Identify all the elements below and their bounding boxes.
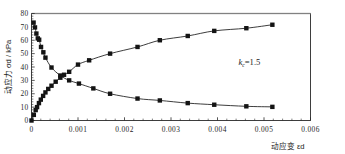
data-point-marker <box>270 23 274 27</box>
data-point-marker <box>108 92 112 96</box>
x-tick-label: 0.003 <box>162 125 180 134</box>
data-point-marker <box>32 113 36 117</box>
data-point-marker <box>135 96 139 100</box>
x-tick-label: 0 <box>29 125 33 134</box>
data-point-marker <box>53 80 57 84</box>
data-point-marker <box>37 38 41 42</box>
data-point-marker <box>67 70 71 74</box>
data-point-marker <box>158 98 162 102</box>
data-point-marker <box>43 55 47 59</box>
chart-canvas: 00.0010.0020.0030.0040.0050.006 01020304… <box>0 0 345 154</box>
plot-frame <box>32 14 311 121</box>
data-point-marker <box>135 45 139 49</box>
x-tick-label: 0.004 <box>208 125 226 134</box>
data-point-marker <box>76 62 80 66</box>
y-axis-tick-labels: 01020304050607080 <box>20 9 28 125</box>
data-point-marker <box>244 26 248 30</box>
x-axis-title: 动应变 εd <box>271 141 305 151</box>
data-point-marker <box>212 29 216 33</box>
data-point-marker <box>33 25 37 29</box>
y-tick-label: 0 <box>24 116 28 125</box>
data-point-marker <box>108 51 112 55</box>
y-tick-label: 30 <box>20 76 28 85</box>
data-point-marker <box>87 58 91 62</box>
x-axis-ticks <box>32 117 311 120</box>
y-tick-label: 20 <box>20 89 28 98</box>
data-point-marker <box>158 38 162 42</box>
data-point-marker <box>77 81 81 85</box>
y-tick-label: 70 <box>20 23 28 32</box>
axis-titles: 动应变 εd动应力 σd / kPa <box>3 39 305 151</box>
data-markers <box>29 20 274 122</box>
data-point-marker <box>244 104 248 108</box>
data-point-marker <box>34 31 38 35</box>
data-point-marker <box>49 84 53 88</box>
x-tick-label: 0.001 <box>69 125 87 134</box>
y-tick-label: 40 <box>20 63 28 72</box>
chart-annotations: kc=1.5 <box>238 57 260 68</box>
x-tick-label: 0.002 <box>115 125 133 134</box>
x-axis-tick-labels: 00.0010.0020.0030.0040.0050.006 <box>29 125 319 134</box>
data-point-marker <box>31 20 35 24</box>
data-point-marker <box>41 50 45 54</box>
x-tick-label: 0.005 <box>255 125 273 134</box>
data-point-marker <box>29 118 33 122</box>
y-tick-label: 50 <box>20 49 28 58</box>
data-point-marker <box>39 45 43 49</box>
y-tick-label: 80 <box>20 9 28 18</box>
x-tick-label: 0.006 <box>301 125 319 134</box>
y-tick-label: 10 <box>20 103 28 112</box>
data-point-marker <box>35 105 39 109</box>
data-point-marker <box>270 105 274 109</box>
data-point-marker <box>91 86 95 90</box>
plot-border <box>32 14 311 121</box>
y-tick-label: 60 <box>20 36 28 45</box>
data-point-marker <box>62 73 66 77</box>
data-point-marker <box>49 65 53 69</box>
descending-curve <box>34 23 273 107</box>
kc-annotation: kc=1.5 <box>238 57 260 68</box>
chart-figure: 00.0010.0020.0030.0040.0050.006 01020304… <box>0 0 345 154</box>
data-point-marker <box>67 78 71 82</box>
data-point-marker <box>186 34 190 38</box>
data-point-marker <box>186 101 190 105</box>
kc-annotation-text: kc=1.5 <box>238 57 260 68</box>
data-point-marker <box>212 103 216 107</box>
y-axis-title: 动应力 σd / kPa <box>3 39 13 94</box>
